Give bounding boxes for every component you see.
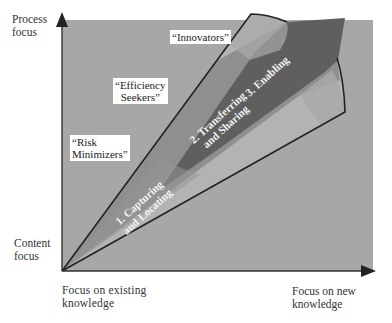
y-bottom-line1: Content (14, 237, 50, 250)
risk-minimizers-label: “Risk Minimizers” (70, 135, 130, 161)
x-axis-left-label: Focus on existing knowledge (62, 284, 147, 310)
x-left-line1: Focus on existing (62, 284, 147, 297)
risk-line2: Minimizers” (72, 148, 128, 160)
y-top-line1: Process (12, 13, 47, 26)
y-axis-top-label: Process focus (12, 13, 47, 39)
diagram-canvas: Process focus Content focus Focus on exi… (0, 0, 392, 323)
x-axis-right-label: Focus on new knowledge (292, 285, 356, 311)
risk-line1: “Risk (72, 136, 128, 148)
x-left-line2: knowledge (62, 297, 147, 310)
y-bottom-line2: focus (14, 250, 50, 263)
efficiency-line1: “Efficiency (115, 79, 166, 91)
y-axis-arrow-icon (56, 12, 68, 27)
y-top-line2: focus (12, 26, 47, 39)
efficiency-line2: Seekers” (115, 91, 166, 103)
diagram-graphic (0, 0, 392, 323)
innovators-label: “Innovators” (170, 30, 231, 44)
efficiency-seekers-label: “Efficiency Seekers” (113, 78, 168, 104)
y-axis-bottom-label: Content focus (14, 237, 50, 263)
x-right-line2: knowledge (292, 298, 356, 311)
x-right-line1: Focus on new (292, 285, 356, 298)
